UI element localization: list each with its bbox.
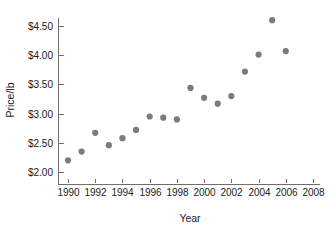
data-point	[65, 157, 71, 163]
data-point	[133, 127, 139, 133]
x-tick-label: 2000	[193, 187, 216, 198]
data-point	[106, 142, 112, 148]
x-axis: 1990199219941996199820002002200420062008	[57, 179, 325, 198]
data-point	[187, 85, 193, 91]
x-tick-label: 1996	[139, 187, 162, 198]
x-tick-label: 2004	[248, 187, 271, 198]
x-tick-label: 1990	[57, 187, 80, 198]
plot-area: $2.00$2.50$3.00$3.50$4.00$4.50 199019921…	[0, 0, 331, 229]
data-point	[255, 52, 261, 58]
data-point	[283, 48, 289, 54]
y-axis: $2.00$2.50$3.00$3.50$4.00$4.50	[28, 18, 64, 184]
data-point	[242, 68, 248, 74]
x-tick-label: 1992	[84, 187, 107, 198]
y-tick-label: $4.00	[28, 50, 53, 61]
data-point	[228, 93, 234, 99]
y-tick-label: $3.50	[28, 79, 53, 90]
y-tick-label: $3.00	[28, 109, 53, 120]
x-tick-label: 1998	[166, 187, 189, 198]
x-tick-label: 1994	[111, 187, 134, 198]
data-point	[201, 95, 207, 101]
data-point	[174, 116, 180, 122]
x-tick-label: 2006	[275, 187, 298, 198]
y-tick-label: $4.50	[28, 21, 53, 32]
data-points	[65, 17, 289, 163]
data-point	[119, 135, 125, 141]
data-point	[160, 115, 166, 121]
data-point	[215, 101, 221, 107]
data-point	[147, 113, 153, 119]
data-point	[79, 148, 85, 154]
y-tick-label: $2.00	[28, 167, 53, 178]
y-axis-title: Price/lb	[4, 82, 16, 117]
scatter-chart: $2.00$2.50$3.00$3.50$4.00$4.50 199019921…	[0, 0, 331, 229]
data-point	[269, 17, 275, 23]
x-axis-title: Year	[179, 212, 201, 224]
x-tick-label: 2008	[302, 187, 325, 198]
x-tick-label: 2002	[220, 187, 243, 198]
y-tick-label: $2.50	[28, 138, 53, 149]
data-point	[92, 130, 98, 136]
